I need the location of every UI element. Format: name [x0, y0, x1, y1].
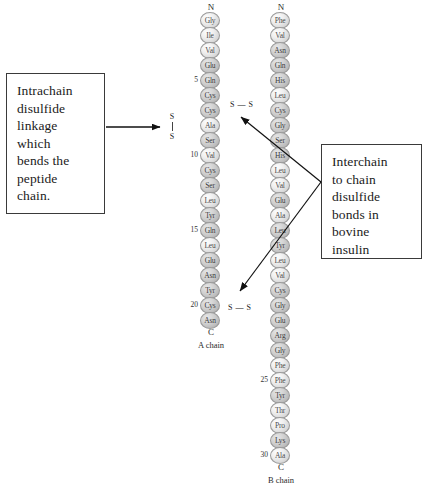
residue-row: Phe [252, 357, 324, 372]
residue-row: Gly [252, 117, 324, 132]
residue-row: 15Gln [182, 222, 254, 237]
residue-row: Val [252, 267, 324, 282]
residue-row: Lys [252, 432, 324, 447]
residue-row: 30Ala [252, 447, 324, 462]
residue-row: 10Val [182, 147, 254, 162]
residue-row: His [252, 147, 324, 162]
residue-row: Cys [252, 102, 324, 117]
a-chain-column: N GlyIleValGlu5GlnCysCysAlaSer10ValCysSe… [182, 2, 254, 350]
residue-row: Phe [252, 12, 324, 27]
residue-row: Glu [182, 57, 254, 72]
residue-row: Ser [252, 132, 324, 147]
residue-row: Ala [182, 117, 254, 132]
residue-row: Cys [252, 282, 324, 297]
residue-row: Asn [252, 42, 324, 57]
residue-row: Tyr [182, 282, 254, 297]
disulfide-s-bottom: S [170, 132, 174, 141]
callout-intrachain-disulfide: Intrachain disulfide linkage which bends… [6, 73, 105, 214]
figure-canvas: Intrachain disulfide linkage which bends… [0, 0, 432, 501]
residue-row: Ser [182, 177, 254, 192]
a-chain-caption: A chain [183, 340, 239, 350]
residue-row: Val [182, 42, 254, 57]
residue-row: 25Phe [252, 372, 324, 387]
residue-row: Tyr [252, 387, 324, 402]
residue-row: Asn [182, 267, 254, 282]
residue-row: Val [252, 177, 324, 192]
residue-row: Leu [252, 162, 324, 177]
residue-row: Glu [252, 312, 324, 327]
residue-number: 20 [182, 300, 198, 309]
a-chain-residue-list: GlyIleValGlu5GlnCysCysAlaSer10ValCysSerL… [182, 12, 254, 327]
residue-row: Gly [252, 297, 324, 312]
residue-row: Leu [252, 252, 324, 267]
residue-row: Leu [252, 222, 324, 237]
residue-row: Cys [182, 162, 254, 177]
residue-row: Ser [182, 132, 254, 147]
residue-number: 15 [182, 225, 198, 234]
residue-row: Tyr [182, 207, 254, 222]
residue-row: Val [252, 27, 324, 42]
residue-row: Leu [182, 237, 254, 252]
residue-number: 5 [182, 75, 198, 84]
callout-interchain-disulfide: Interchain to chain disulfide bonds in b… [321, 144, 422, 259]
residue-row: Thr [252, 402, 324, 417]
residue-row: Gly [182, 12, 254, 27]
residue-row: Asn [182, 312, 254, 327]
residue-asn: Asn [200, 312, 220, 329]
intrachain-disulfide-label: S S [166, 112, 178, 141]
b-chain-caption: B chain [253, 475, 309, 485]
residue-row: Ala [252, 207, 324, 222]
b-chain-n-terminus: N [270, 2, 292, 12]
residue-row: Leu [252, 87, 324, 102]
disulfide-s-top: S [170, 112, 174, 121]
residue-row: 5Gln [182, 72, 254, 87]
residue-row: Pro [252, 417, 324, 432]
residue-number: 10 [182, 150, 198, 159]
b-chain-residue-list: PheValAsnGlnHisLeuCysGlySerHisLeuValGluA… [252, 12, 324, 462]
residue-row: Glu [182, 252, 254, 267]
a-chain-n-terminus: N [200, 2, 222, 12]
residue-ala: Ala [270, 447, 290, 464]
residue-row: Tyr [252, 237, 324, 252]
disulfide-bond-bar [172, 122, 173, 131]
b-chain-column: N PheValAsnGlnHisLeuCysGlySerHisLeuValGl… [252, 2, 324, 485]
residue-row: Gln [252, 57, 324, 72]
residue-number: 30 [252, 450, 268, 459]
residue-row: Leu [182, 192, 254, 207]
interchain-disulfide-label-upper: S — S [230, 100, 253, 110]
residue-row: Arg [252, 327, 324, 342]
residue-row: Ile [182, 27, 254, 42]
residue-row: Gly [252, 342, 324, 357]
residue-row: His [252, 72, 324, 87]
residue-row: Glu [252, 192, 324, 207]
residue-number: 25 [252, 375, 268, 384]
interchain-disulfide-label-lower: S — S [228, 303, 251, 313]
